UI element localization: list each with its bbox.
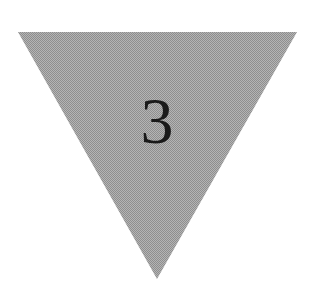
triangle-number-label: 3 xyxy=(0,88,314,154)
